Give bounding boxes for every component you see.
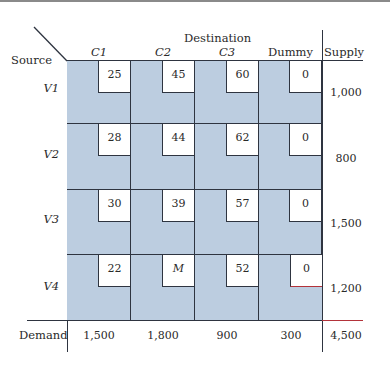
cell-v1-c1[interactable]: 25 xyxy=(67,61,131,124)
cost-box: 60 xyxy=(226,61,258,93)
row-label-v2: V2 xyxy=(19,147,59,161)
cell-v3-c2[interactable]: 39 xyxy=(131,190,195,255)
cell-v3-dummy[interactable]: 0 xyxy=(259,190,322,255)
cell-v4-c2[interactable]: M xyxy=(131,255,195,320)
cell-v2-c1[interactable]: 28 xyxy=(67,124,131,190)
cost-box: 30 xyxy=(98,190,130,222)
demand-c1: 1,500 xyxy=(67,329,131,342)
cost-box: 25 xyxy=(98,61,130,93)
cell-v4-c3[interactable]: 52 xyxy=(195,255,259,320)
row-label-v3: V3 xyxy=(19,212,59,226)
cost-box: 22 xyxy=(98,255,130,287)
cell-v1-c3[interactable]: 60 xyxy=(195,61,259,124)
cost-box: 28 xyxy=(98,124,130,156)
cell-v1-c2[interactable]: 45 xyxy=(131,61,195,124)
demand-c3: 900 xyxy=(195,329,259,342)
cell-v4-c1[interactable]: 22 xyxy=(67,255,131,320)
demand-label: Demand xyxy=(19,328,68,342)
demand-rule xyxy=(27,320,322,321)
cell-v2-c2[interactable]: 44 xyxy=(131,124,195,190)
row-label-v1: V1 xyxy=(19,81,59,95)
cost-box: M xyxy=(162,255,194,287)
demand-c2: 1,800 xyxy=(131,329,195,342)
supply-v4: 1,200 xyxy=(314,282,378,295)
cell-v2-dummy[interactable]: 0 xyxy=(259,124,322,190)
cell-v4-dummy[interactable]: 0 xyxy=(259,255,322,320)
supply-v3: 1,500 xyxy=(314,217,378,230)
supply-v2: 800 xyxy=(314,152,378,165)
cost-box: 39 xyxy=(162,190,194,222)
row-label-v4: V4 xyxy=(19,279,59,293)
cell-v3-c1[interactable]: 30 xyxy=(67,190,131,255)
demand-total: 4,500 xyxy=(314,329,378,342)
cost-box: 52 xyxy=(226,255,258,287)
total-rule xyxy=(322,320,363,321)
supply-v1: 1,000 xyxy=(314,86,378,99)
cost-box: 57 xyxy=(226,190,258,222)
cost-box: 44 xyxy=(162,124,194,156)
cell-v1-dummy[interactable]: 0 xyxy=(259,61,322,124)
cell-v2-c3[interactable]: 62 xyxy=(195,124,259,190)
cost-box: 62 xyxy=(226,124,258,156)
cost-box: 45 xyxy=(162,61,194,93)
cost-grid: 25 45 60 0 28 44 62 0 30 39 57 0 22 M 52… xyxy=(67,61,322,320)
cell-v3-c3[interactable]: 57 xyxy=(195,190,259,255)
